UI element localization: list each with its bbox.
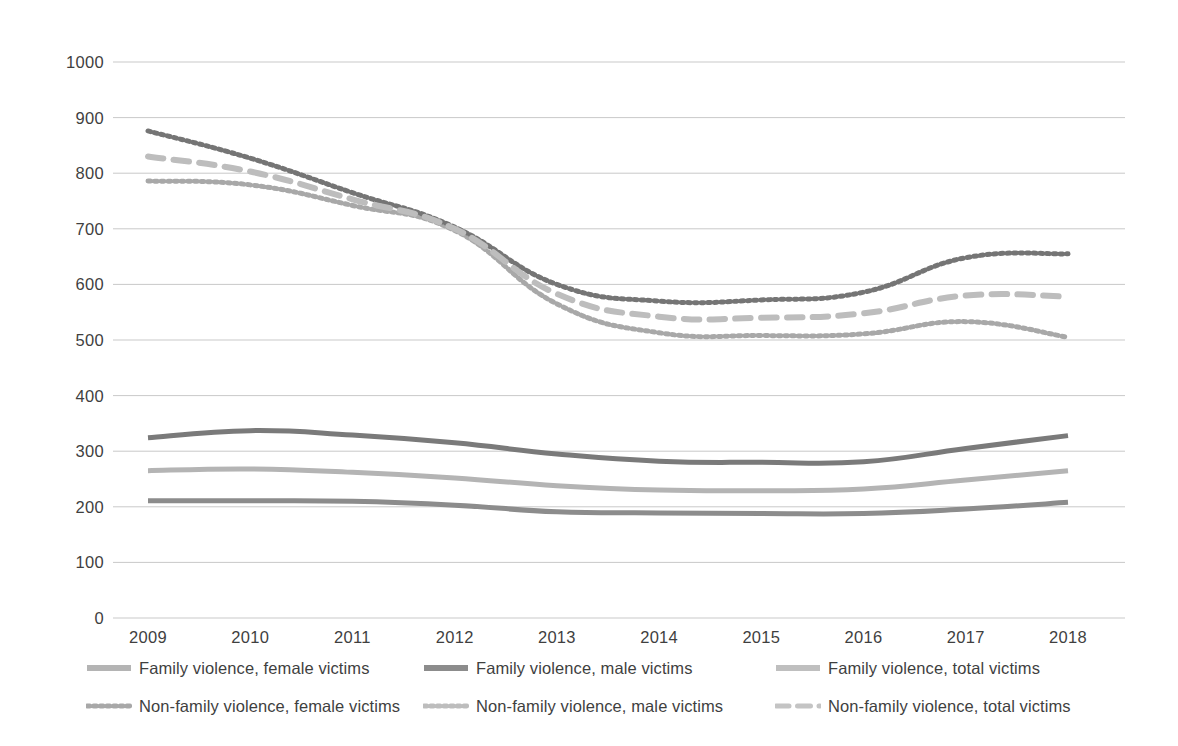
x-tick-label: 2017 — [947, 628, 985, 647]
series-lines — [148, 131, 1068, 514]
legend-label: Non-family violence, female victims — [139, 697, 400, 716]
y-tick-label: 300 — [0, 442, 104, 461]
y-tick-label: 200 — [0, 497, 104, 516]
series-line-0 — [148, 469, 1068, 491]
legend-item[interactable]: Non-family violence, female victims — [86, 693, 400, 719]
legend-row-non-family: Non-family violence, female victimsNon-f… — [0, 693, 1178, 727]
series-line-4 — [148, 131, 1068, 303]
legend-swatch-dashed-icon — [775, 699, 821, 713]
y-tick-label: 600 — [0, 275, 104, 294]
legend-label: Family violence, total victims — [828, 659, 1040, 678]
legend-item[interactable]: Non-family violence, male victims — [423, 693, 723, 719]
legend-label: Family violence, male victims — [476, 659, 693, 678]
x-tick-label: 2015 — [742, 628, 780, 647]
legend-label: Non-family violence, total victims — [828, 697, 1071, 716]
y-tick-label: 1000 — [0, 53, 104, 72]
legend-item[interactable]: Non-family violence, total victims — [775, 693, 1071, 719]
legend-swatch-dotted-icon — [86, 699, 132, 713]
violence-victims-line-chart: 10009008007006005004003002001000 2009201… — [0, 0, 1178, 746]
series-line-3 — [148, 181, 1068, 337]
legend-swatch-dotted-icon — [423, 699, 469, 713]
series-line-2 — [148, 431, 1068, 464]
legend-item[interactable]: Family violence, total victims — [775, 655, 1040, 681]
y-tick-label: 500 — [0, 331, 104, 350]
x-tick-label: 2011 — [334, 628, 371, 647]
x-axis: 2009201020112012201320142015201620172018 — [113, 628, 1125, 654]
plot-svg — [113, 62, 1125, 618]
plot-area — [113, 62, 1125, 618]
y-tick-label: 400 — [0, 386, 104, 405]
x-tick-label: 2013 — [538, 628, 576, 647]
x-tick-label: 2014 — [640, 628, 678, 647]
legend-swatch-solid-icon — [86, 661, 132, 675]
x-tick-label: 2012 — [436, 628, 474, 647]
x-tick-label: 2018 — [1049, 628, 1087, 647]
gridlines — [113, 62, 1125, 618]
y-axis: 10009008007006005004003002001000 — [0, 0, 104, 746]
x-tick-label: 2016 — [845, 628, 883, 647]
y-tick-label: 0 — [0, 609, 104, 628]
legend-item[interactable]: Family violence, female victims — [86, 655, 370, 681]
x-tick-label: 2009 — [129, 628, 167, 647]
y-tick-label: 700 — [0, 219, 104, 238]
legend-swatch-solid-icon — [423, 661, 469, 675]
legend-item[interactable]: Family violence, male victims — [423, 655, 693, 681]
legend-label: Family violence, female victims — [139, 659, 370, 678]
legend-label: Non-family violence, male victims — [476, 697, 723, 716]
y-tick-label: 800 — [0, 164, 104, 183]
y-tick-label: 100 — [0, 553, 104, 572]
y-tick-label: 900 — [0, 108, 104, 127]
legend-row-family: Family violence, female victimsFamily vi… — [0, 655, 1178, 689]
x-tick-label: 2010 — [231, 628, 269, 647]
chart-legend: Family violence, female victimsFamily vi… — [0, 655, 1178, 735]
legend-swatch-solid-icon — [775, 661, 821, 675]
